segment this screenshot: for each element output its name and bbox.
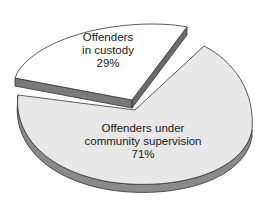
label-community-supervision-value: 71% (78, 148, 208, 161)
label-in-custody-line2: in custody (73, 44, 143, 57)
label-community-supervision-line1: Offenders under (78, 122, 208, 135)
label-community-supervision: Offenders under community supervision 71… (78, 122, 208, 161)
pie-chart: Offenders in custody 29% Offenders under… (0, 0, 265, 210)
label-in-custody-line1: Offenders (73, 31, 143, 44)
label-community-supervision-line2: community supervision (78, 135, 208, 148)
label-in-custody-value: 29% (73, 57, 143, 70)
label-in-custody: Offenders in custody 29% (73, 31, 143, 70)
